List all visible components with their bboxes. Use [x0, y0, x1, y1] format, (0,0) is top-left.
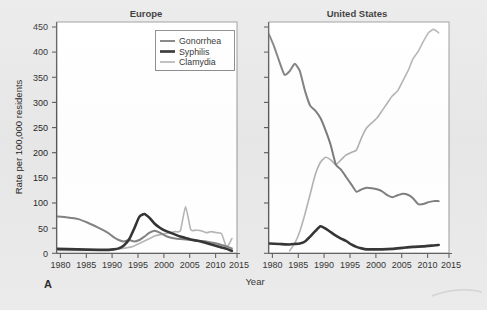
std-rates-chart: Europe 0 50 100 150: [0, 0, 487, 310]
y-axis-title: Rate per 100,000 residents: [13, 79, 24, 194]
chart-legend: Gonorrhea Syphilis Clamydia: [156, 31, 235, 71]
x-tick-label: 1990: [102, 260, 122, 270]
x-tick-label: 1985: [288, 260, 308, 270]
x-tick-label: 2000: [154, 260, 174, 270]
y-tick-label: 300: [33, 98, 48, 108]
y-tick-label: 100: [33, 198, 48, 208]
x-axis-title: Year: [245, 276, 264, 287]
plot-area-united-states: [269, 22, 449, 253]
figure-container: Europe 0 50 100 150: [0, 0, 487, 310]
x-tick-label: 1985: [76, 260, 96, 270]
x-tick-label: 1990: [314, 260, 334, 270]
y-tick-label: 50: [38, 224, 48, 234]
y-tick-label: 200: [33, 148, 48, 158]
x-tick-label: 1980: [262, 260, 282, 270]
legend-label-clamydia: Clamydia: [179, 57, 216, 67]
x-tick-label: 2010: [418, 260, 438, 270]
legend-label-gonorrhea: Gonorrhea: [179, 36, 221, 46]
y-tick-label: 0: [43, 249, 48, 259]
panel-title-united-states: United States: [327, 8, 388, 19]
panel-title-europe: Europe: [130, 8, 163, 19]
y-tick-label: 450: [33, 22, 48, 32]
x-tick-label: 1980: [50, 260, 70, 270]
x-tick-label: 1995: [340, 260, 360, 270]
y-tick-label: 350: [33, 73, 48, 83]
legend-label-syphilis: Syphilis: [179, 47, 210, 57]
x-tick-label: 2015: [229, 260, 249, 270]
x-tick-label: 1995: [128, 260, 148, 270]
x-tick-label: 2015: [441, 260, 461, 270]
panel-letter-label: A: [44, 278, 52, 290]
panel-united-states: United States: [262, 8, 461, 270]
x-tick-label: 2010: [206, 260, 226, 270]
x-tick-label: 2000: [366, 260, 386, 270]
x-tick-label: 2005: [392, 260, 412, 270]
y-tick-label: 250: [33, 123, 48, 133]
y-tick-label: 150: [33, 173, 48, 183]
y-tick-label: 400: [33, 47, 48, 57]
x-tick-label: 2005: [180, 260, 200, 270]
